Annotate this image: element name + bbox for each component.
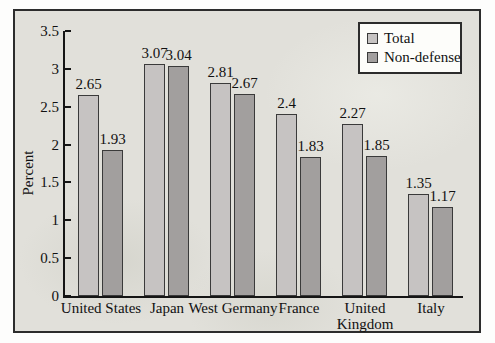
bar-non-defense-west-germany [234,94,255,296]
legend-item-non-defense: Non-defense [367,48,457,67]
bar-non-defense-united-states [102,150,123,296]
y-tick-label: 0 [17,287,59,305]
y-tick [65,257,71,259]
bar-non-defense-italy [432,207,453,296]
value-label-total-france: 2.4 [257,94,317,112]
bar-non-defense-japan [168,66,189,296]
bar-non-defense-united-kingdom [366,156,387,296]
legend-label-total: Total [384,30,415,47]
figure: Percent 00.511.522.533.5 2.653.072.812.4… [0,0,495,343]
bar-total-west-germany [210,83,231,296]
legend-swatch-total [367,33,378,44]
value-label-total-united-kingdom: 2.27 [323,104,383,122]
x-axis-line [63,296,463,298]
value-label-non-defense-united-states: 1.93 [83,130,143,148]
legend-swatch-non-defense [367,52,378,63]
value-label-non-defense-west-germany: 2.67 [215,74,275,92]
bar-total-united-states [78,95,99,296]
y-tick [65,295,71,297]
bar-non-defense-france [300,157,321,296]
y-tick-label: 1.5 [17,173,59,191]
y-tick-label: 2.5 [17,98,59,116]
y-tick [65,68,71,70]
legend-label-non-defense: Non-defense [384,49,461,66]
y-tick [65,144,71,146]
value-label-non-defense-japan: 3.04 [149,46,209,64]
y-tick-label: 3.5 [17,22,59,40]
x-axis-label-italy: Italy [384,300,478,316]
chart-panel: Percent 00.511.522.533.5 2.653.072.812.4… [13,9,481,333]
y-tick [65,181,71,183]
y-tick [65,30,71,32]
y-tick-label: 1 [17,211,59,229]
y-tick [65,106,71,108]
legend: TotalNon-defense [358,22,462,74]
y-tick [65,219,71,221]
bar-total-japan [144,64,165,296]
y-tick-label: 0.5 [17,249,59,267]
legend-item-total: Total [367,29,457,48]
value-label-total-united-states: 2.65 [59,75,119,93]
value-label-non-defense-france: 1.83 [281,137,341,155]
value-label-non-defense-italy: 1.17 [413,187,473,205]
y-tick-label: 2 [17,136,59,154]
bar-total-italy [408,194,429,296]
y-tick-label: 3 [17,60,59,78]
value-label-non-defense-united-kingdom: 1.85 [347,136,407,154]
